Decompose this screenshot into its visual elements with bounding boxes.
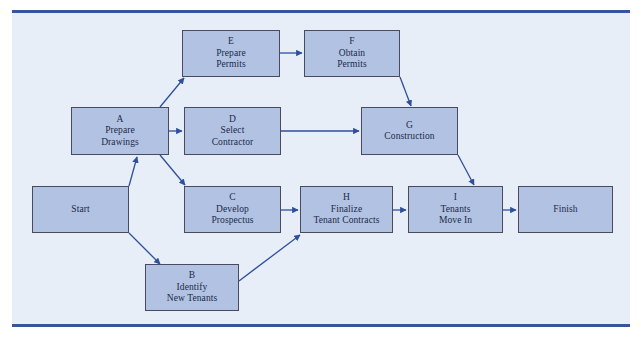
node-label-line: B: [189, 270, 195, 282]
node-a[interactable]: APrepareDrawings: [71, 107, 169, 155]
node-label-line: Finish: [553, 204, 577, 216]
edge-f-to-g: [400, 77, 411, 106]
node-label-line: Contractor: [212, 137, 254, 149]
node-label-line: Tenants: [440, 204, 470, 216]
edge-g-to-i: [458, 155, 474, 185]
node-label-line: G: [406, 120, 413, 132]
node-g[interactable]: GConstruction: [361, 107, 458, 155]
node-finish[interactable]: Finish: [518, 186, 613, 233]
node-label-line: Tenant Contracts: [313, 215, 379, 227]
node-label-line: A: [117, 114, 124, 126]
node-label-line: Obtain: [339, 48, 365, 60]
node-label-line: Permits: [337, 59, 367, 71]
node-label-line: F: [349, 36, 354, 48]
diagram-page: EPreparePermitsFObtainPermitsAPrepareDra…: [0, 0, 641, 344]
node-label-line: Start: [71, 204, 89, 216]
node-label-line: Prepare: [216, 48, 246, 60]
node-label-line: Prepare: [105, 125, 135, 137]
edge-b-to-h: [239, 235, 300, 281]
node-d[interactable]: DSelectContractor: [184, 107, 281, 155]
node-h[interactable]: HFinalizeTenant Contracts: [300, 186, 393, 233]
node-label-line: Move In: [439, 215, 472, 227]
node-label-line: New Tenants: [167, 293, 218, 305]
node-f[interactable]: FObtainPermits: [304, 30, 400, 77]
node-label-line: Prospectus: [211, 215, 253, 227]
edge-a-to-c: [160, 155, 185, 185]
node-label-line: D: [229, 114, 236, 126]
edge-start-to-a: [129, 157, 137, 186]
node-label-line: Identify: [177, 282, 208, 294]
node-c[interactable]: CDevelopProspectus: [184, 186, 281, 233]
node-label-line: H: [343, 192, 350, 204]
node-b[interactable]: BIdentifyNew Tenants: [145, 264, 239, 311]
edges-group: [129, 53, 516, 281]
node-i[interactable]: ITenantsMove In: [408, 186, 503, 233]
node-label-line: E: [228, 36, 234, 48]
node-label-line: Finalize: [331, 204, 362, 216]
node-start[interactable]: Start: [32, 186, 129, 233]
node-label-line: Select: [221, 125, 245, 137]
edge-start-to-b: [129, 233, 160, 264]
edge-a-to-e: [160, 78, 184, 107]
node-label-line: Permits: [216, 59, 246, 71]
node-e[interactable]: EPreparePermits: [182, 30, 280, 77]
node-label-line: Construction: [384, 131, 434, 143]
node-label-line: I: [454, 192, 457, 204]
node-label-line: C: [229, 192, 235, 204]
node-label-line: Drawings: [101, 137, 139, 149]
node-label-line: Develop: [216, 204, 249, 216]
